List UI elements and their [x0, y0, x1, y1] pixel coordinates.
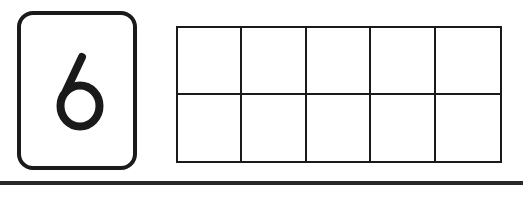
ten-frame-cell[interactable] — [307, 95, 371, 162]
number-card: 6 — [17, 11, 137, 170]
ten-frame-cell[interactable] — [436, 95, 500, 162]
digit-six-glyph — [21, 15, 133, 166]
ten-frame-cell[interactable] — [178, 95, 242, 162]
ten-frame-cell[interactable] — [371, 28, 435, 95]
ten-frame-cell[interactable] — [242, 28, 306, 95]
ten-frame-grid — [176, 26, 502, 163]
ten-frame-cell[interactable] — [436, 28, 500, 95]
ten-frame-cell[interactable] — [307, 28, 371, 95]
horizontal-divider — [0, 181, 523, 185]
ten-frame-cell[interactable] — [242, 95, 306, 162]
ten-frame-cell[interactable] — [178, 28, 242, 95]
ten-frame-cell[interactable] — [371, 95, 435, 162]
